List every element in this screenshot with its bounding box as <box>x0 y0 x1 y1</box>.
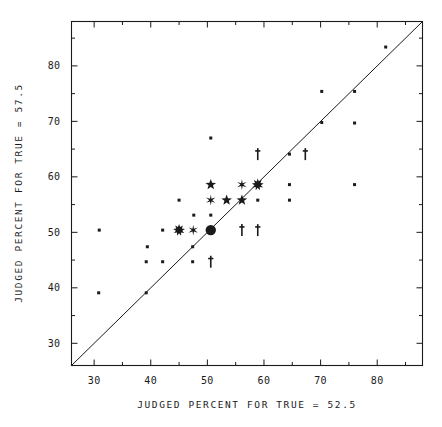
x-axis-label: JUDGED PERCENT FOR TRUE = 52.5 <box>137 399 357 410</box>
data-point-dot <box>209 214 212 217</box>
y-tick-label: 70 <box>48 116 61 127</box>
y-tick-label: 50 <box>48 227 61 238</box>
data-point-dot <box>320 121 323 124</box>
data-point-dot <box>97 291 100 294</box>
y-axis-label: JUDGED PERCENT FOR TRUE = 57.5 <box>13 83 24 303</box>
x-tick-label: 60 <box>258 375 271 386</box>
data-point-dot <box>353 183 356 186</box>
data-point-burst-core <box>255 182 260 187</box>
data-point-burst-core <box>176 228 181 233</box>
data-point-dot <box>146 245 149 248</box>
plot-canvas: 304050607080 304050607080 JUDGED PERCENT… <box>0 0 442 427</box>
x-tick-label: 50 <box>201 375 214 386</box>
data-point-dot <box>161 260 164 263</box>
data-point-dot <box>145 260 148 263</box>
x-tick-label: 80 <box>371 375 384 386</box>
data-point-dot <box>288 153 291 156</box>
data-point-dot <box>353 122 356 125</box>
x-tick-label: 70 <box>314 375 327 386</box>
data-point-dot <box>209 137 212 140</box>
scatter-plot-figure: 304050607080 304050607080 JUDGED PERCENT… <box>0 0 442 427</box>
x-tick-label: 40 <box>144 375 157 386</box>
data-point-dot <box>353 90 356 93</box>
figure-background <box>0 0 442 427</box>
x-tick-label: 30 <box>88 375 101 386</box>
y-tick-label: 30 <box>48 338 61 349</box>
data-point-dot <box>191 245 194 248</box>
data-point-dot <box>384 46 387 49</box>
y-tick-label: 60 <box>48 171 61 182</box>
data-point-dot <box>161 229 164 232</box>
data-point-dot <box>98 229 101 232</box>
data-point-dot <box>191 260 194 263</box>
y-tick-label: 40 <box>48 282 61 293</box>
data-point-dot <box>192 214 195 217</box>
data-point-dot <box>145 291 148 294</box>
data-point-dot <box>256 199 259 202</box>
data-point-dot <box>178 199 181 202</box>
data-point-dot <box>320 90 323 93</box>
data-point-dot <box>288 199 291 202</box>
y-tick-label: 80 <box>48 60 61 71</box>
data-point-circle <box>206 225 216 235</box>
data-point-dot <box>288 183 291 186</box>
